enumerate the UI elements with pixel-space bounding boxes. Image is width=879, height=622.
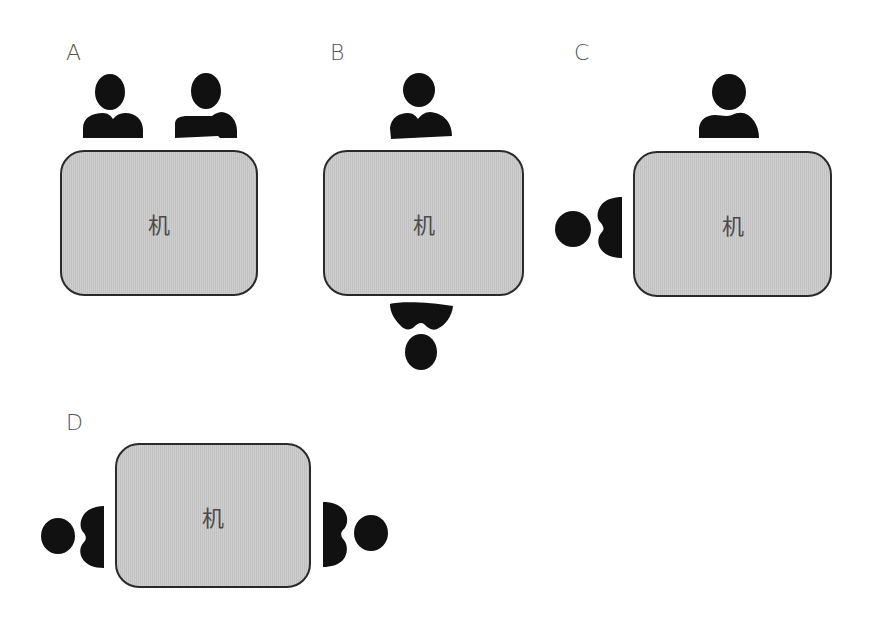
table-c: 机 (633, 151, 832, 297)
table-label-d: 机 (202, 500, 224, 532)
table-label-b: 机 (413, 207, 435, 239)
person-icon-d-left (41, 506, 104, 568)
person-icon-c-top (699, 74, 759, 138)
panel-label-a: A (66, 42, 81, 64)
table-label-a: 机 (148, 207, 170, 239)
panel-label-c: C (574, 42, 589, 64)
panel-label-d: D (66, 412, 83, 434)
person-icon-d-right (323, 502, 388, 567)
person-icon-b-top (390, 73, 452, 139)
panel-label-b: B (330, 42, 344, 64)
person-icon-b-bottom (390, 302, 453, 370)
table-a: 机 (60, 150, 258, 296)
person-icon-a-left (83, 74, 143, 138)
table-label-c: 机 (722, 208, 744, 240)
person-icon-a-right (175, 73, 237, 138)
person-icon-c-left (555, 197, 622, 258)
table-b: 机 (323, 150, 524, 296)
table-d: 机 (115, 443, 311, 588)
